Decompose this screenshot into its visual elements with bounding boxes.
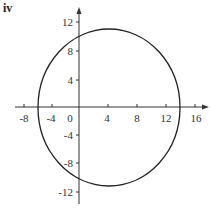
x-tick-label: 8 [134, 112, 140, 124]
x-tick-label: 0 [67, 112, 73, 124]
y-tick-label: 12 [62, 16, 73, 28]
x-axis-arrow-icon [202, 105, 209, 110]
y-tick-label: -12 [58, 186, 73, 198]
x-tick-label: -4 [46, 112, 56, 124]
chart-plot: -8 -4 0 4 8 12 16 12 8 4 -4 -8 -12 [0, 0, 210, 209]
x-tick-label: 16 [191, 112, 203, 124]
y-tick-label: -8 [64, 157, 74, 169]
x-tick-label: -8 [19, 112, 29, 124]
y-tick-label: -4 [64, 129, 74, 141]
y-tick-label: 4 [68, 74, 74, 86]
x-tick-label: 12 [161, 112, 172, 124]
y-tick-label: 8 [68, 45, 74, 57]
y-axis-arrow-icon [77, 7, 82, 14]
x-tick-label: 4 [104, 112, 110, 124]
